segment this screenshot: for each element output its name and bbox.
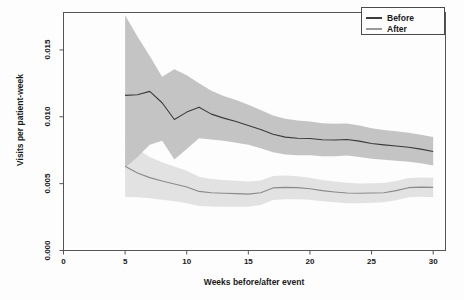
- y-tick-label: 0.010: [42, 99, 51, 133]
- y-axis-title: Visits per patient-week: [15, 60, 25, 180]
- x-tick-label: 25: [360, 257, 384, 266]
- legend-label-after: After: [387, 23, 407, 35]
- line-chart-plot: [0, 0, 464, 300]
- y-tick-label: 0.015: [42, 32, 51, 66]
- legend-swatch-before: [366, 17, 382, 19]
- legend-swatch-after: [366, 28, 382, 30]
- x-tick-label: 15: [236, 257, 260, 266]
- chart-legend: Before After: [361, 7, 445, 35]
- y-tick-label: 0.005: [42, 166, 51, 200]
- x-tick-label: 10: [175, 257, 199, 266]
- chart-canvas: Visits per patient-week Weeks before/aft…: [0, 0, 464, 300]
- x-tick-label: 5: [113, 257, 137, 266]
- x-axis-title: Weeks before/after event: [63, 277, 445, 287]
- confidence-bands-group: [125, 15, 433, 206]
- x-tick-label: 0: [52, 257, 76, 266]
- x-tick-label: 30: [421, 257, 445, 266]
- x-tick-label: 20: [298, 257, 322, 266]
- y-tick-label: 0.000: [42, 233, 51, 267]
